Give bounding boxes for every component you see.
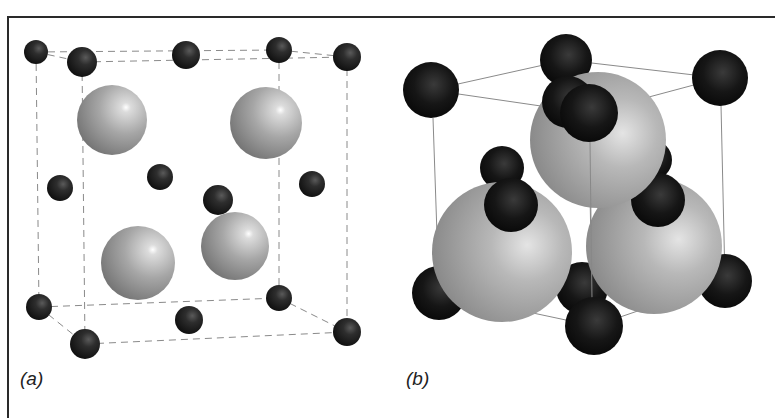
small-atom <box>266 37 292 63</box>
panel-a-unit-cell <box>24 37 361 359</box>
small-atom <box>175 306 203 334</box>
small-atom <box>333 43 361 71</box>
small-atom <box>47 175 73 201</box>
small-atom <box>147 164 173 190</box>
crystal-structure-figure <box>0 0 775 418</box>
small-atom <box>24 40 48 64</box>
small-atom <box>403 62 459 118</box>
panel-a-small-atoms <box>24 37 361 359</box>
large-atom <box>201 212 269 280</box>
small-atom <box>560 84 618 142</box>
large-atom <box>77 85 147 155</box>
panel-a-cube-edges <box>36 50 347 344</box>
panel-b-unit-cell <box>403 34 752 355</box>
panel-a-label: (a) <box>20 368 43 390</box>
panel-a-large-atoms <box>77 85 302 300</box>
large-atom <box>101 226 175 300</box>
small-atom <box>67 47 97 77</box>
small-atom <box>266 285 292 311</box>
small-atom <box>333 318 361 346</box>
panel-b-label: (b) <box>406 368 429 390</box>
small-atom <box>692 50 748 106</box>
large-atom <box>230 87 302 159</box>
small-atom <box>484 178 538 232</box>
small-atom <box>299 171 325 197</box>
small-atom <box>172 41 200 69</box>
small-atom <box>203 185 233 215</box>
small-atom <box>70 329 100 359</box>
small-atom <box>26 294 52 320</box>
small-atom <box>565 297 623 355</box>
